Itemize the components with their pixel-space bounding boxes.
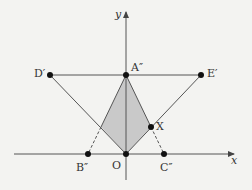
label-e: E′ xyxy=(207,68,218,79)
segment-a-b-dashed xyxy=(88,127,101,154)
label-c: C″ xyxy=(160,162,173,173)
coordinate-diagram: y x D′ A″ E′ X B″ O C″ xyxy=(0,0,252,190)
point-d xyxy=(47,72,53,78)
label-d: D′ xyxy=(34,68,45,79)
label-b: B″ xyxy=(76,162,88,173)
label-o: O xyxy=(112,160,121,171)
label-a: A″ xyxy=(131,62,143,73)
label-x: X xyxy=(156,121,164,132)
point-o xyxy=(123,151,129,157)
point-c xyxy=(161,151,167,157)
point-a xyxy=(123,72,129,78)
x-axis-label: x xyxy=(231,155,237,166)
point-x xyxy=(148,124,154,130)
diagram-canvas xyxy=(0,0,252,190)
point-b xyxy=(85,151,91,157)
point-e xyxy=(198,72,204,78)
y-axis-label: y xyxy=(115,9,121,20)
